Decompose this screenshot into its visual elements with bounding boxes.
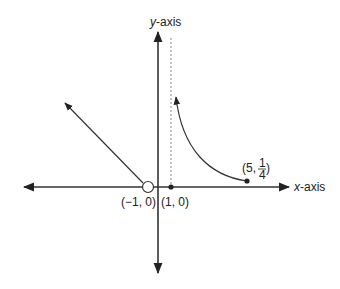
- x-axis-label: x-axis: [293, 180, 325, 194]
- label-neg1-0: (−1, 0): [121, 195, 156, 209]
- label-5-quarter: (5, 1 4 ): [242, 156, 270, 182]
- piecewise-graph: y-axis x-axis (−1, 0) (1, 0) (5, 1 4 ): [0, 0, 340, 289]
- hyperbola-curve: [176, 97, 247, 181]
- closed-point-1: [168, 184, 173, 189]
- label-1-0: (1, 0): [161, 195, 189, 209]
- y-axis-label: y-axis: [149, 15, 181, 29]
- svg-text:(5,: (5,: [242, 161, 256, 175]
- ray-segment: [65, 103, 143, 183]
- open-point-neg1: [143, 182, 154, 193]
- svg-text:): ): [266, 161, 270, 175]
- svg-text:4: 4: [259, 168, 266, 182]
- closed-point-5: [244, 178, 249, 183]
